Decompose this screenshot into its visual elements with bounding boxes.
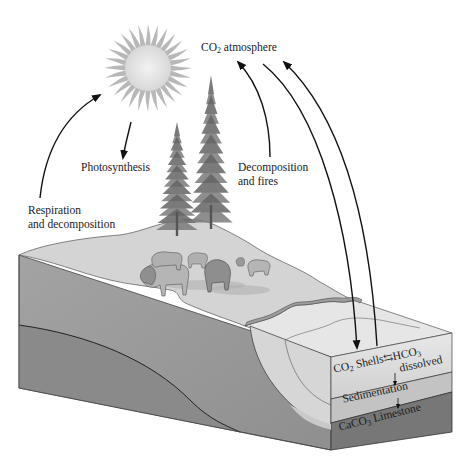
decomposition-arrow	[238, 62, 270, 157]
co2-atmosphere-label: CO2 atmosphere	[201, 40, 277, 54]
respiration-arrow	[40, 95, 100, 198]
photosynthesis-label: Photosynthesis	[81, 160, 150, 174]
sun-icon	[104, 24, 192, 112]
decomposition-fires-label: Decomposition and fires	[238, 160, 308, 188]
respiration-label: Respiration and decomposition	[28, 203, 115, 231]
tree-icon	[156, 75, 232, 236]
photosynthesis-arrow	[123, 122, 131, 158]
